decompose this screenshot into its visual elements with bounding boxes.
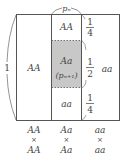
fraction-bottom-den: 4 — [87, 105, 93, 115]
cross2-bottom: Aa — [60, 145, 73, 155]
fraction-connector-1 — [82, 15, 86, 19]
left-label: 1 — [4, 63, 10, 73]
col2-middle-sub: (pₙ₊₁) — [55, 71, 77, 80]
fraction-middle-den: 2 — [87, 69, 93, 79]
fraction-top-num: 1 — [87, 17, 93, 27]
top-label: pₙ — [62, 4, 70, 13]
cross2-top: Aa — [60, 125, 73, 135]
cross3-x: × — [97, 136, 103, 144]
fraction-top-den: 4 — [87, 28, 93, 38]
cross1-bottom: AA — [27, 145, 41, 155]
cross3-top: aa — [95, 125, 106, 135]
col3-label: aa — [102, 64, 113, 74]
col2-top-label: AA — [59, 22, 73, 32]
fraction-connector-4 — [82, 115, 87, 120]
cross1-top: AA — [27, 125, 41, 135]
col2-middle-label: Aa — [60, 56, 73, 66]
fraction-bottom-num: 1 — [87, 93, 93, 103]
cross2-x: × — [64, 136, 70, 144]
fraction-connector-3 — [82, 80, 87, 88]
col1-label: AA — [27, 63, 41, 73]
cross3-bottom: aa — [95, 145, 106, 155]
fraction-connector-2 — [82, 40, 87, 50]
genotype-diagram: pₙ 1 AA AA Aa (pₙ₊₁) aa aa 1 4 1 2 1 4 A… — [0, 0, 122, 159]
cross1-x: × — [31, 136, 37, 144]
col2-bottom-label: aa — [61, 99, 72, 109]
fraction-middle-num: 1 — [87, 57, 93, 67]
